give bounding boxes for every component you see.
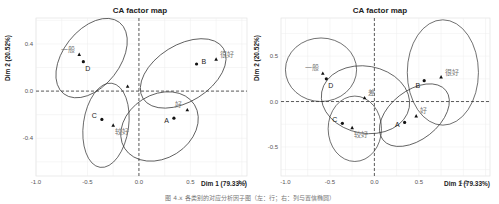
plot-panel — [36, 18, 247, 176]
row-label: B — [416, 82, 421, 89]
column-label: 一般 — [305, 63, 319, 72]
y-tick-label: -0.4 — [23, 135, 34, 141]
row-point — [403, 121, 406, 124]
x-tick-label: 0.0 — [370, 179, 379, 185]
row-point — [423, 79, 426, 82]
row-label: D — [328, 82, 333, 89]
y-tick-label: -0.5 — [268, 144, 279, 150]
column-label: 一般 — [61, 45, 75, 54]
plot-panel — [281, 18, 490, 176]
column-label: 较好 — [354, 130, 368, 139]
x-tick-label: -0.5 — [82, 179, 93, 185]
row-label: A — [395, 121, 400, 128]
ca-factor-map-left: -1.0-0.50.00.51.0-0.40.00.4ABCD很好好较好一般差 … — [4, 5, 247, 188]
y-tick-label: 0.0 — [25, 88, 34, 94]
x-tick-label: -1.0 — [280, 179, 291, 185]
row-point — [100, 118, 103, 121]
column-label: 很好 — [445, 68, 459, 77]
column-label: 较好 — [115, 127, 129, 136]
y-axis-label: Dim 2 (20.52%) — [4, 35, 12, 81]
y-tick-label: 0.5 — [270, 53, 279, 59]
y-tick-label: 0.0 — [270, 99, 279, 105]
figure: -1.0-0.50.00.51.0-0.40.00.4ABCD很好好较好一般差 … — [0, 0, 499, 204]
x-axis-label: Dim 1 (79.33%) — [444, 180, 490, 188]
x-tick-label: -0.5 — [325, 179, 336, 185]
column-label: 好 — [175, 100, 182, 109]
row-point — [325, 77, 328, 80]
column-label: 好 — [420, 106, 427, 115]
y-axis-label: Dim 2 (20.52%) — [253, 35, 261, 81]
chart-title: CA factor map — [113, 6, 167, 15]
ca-factor-map-right: -1.0-0.50.00.51.0-0.50.00.5ABCD很好好较好一般差 … — [253, 6, 490, 188]
row-point — [341, 122, 344, 125]
row-point — [195, 62, 198, 65]
figure-caption: 图 4.x 各类别的对应分析因子图（左：行；右：列与置信椭圆） — [165, 194, 334, 202]
chart-title: CA factor map — [353, 6, 407, 15]
row-label: C — [332, 116, 337, 123]
x-tick-label: 0.5 — [415, 179, 424, 185]
y-tick-label: 0.4 — [25, 41, 34, 47]
column-label: 很好 — [220, 50, 234, 59]
row-label: B — [202, 58, 207, 65]
x-axis-label: Dim 1 (79.33%) — [201, 180, 247, 188]
row-point — [172, 117, 175, 120]
row-label: C — [92, 112, 97, 119]
column-label: 差 — [368, 88, 375, 97]
row-label: A — [164, 117, 169, 124]
x-tick-label: -1.0 — [31, 179, 42, 185]
row-label: D — [85, 65, 90, 72]
x-tick-label: 0.5 — [186, 179, 195, 185]
row-point — [82, 60, 85, 63]
x-tick-label: 0.0 — [135, 179, 144, 185]
